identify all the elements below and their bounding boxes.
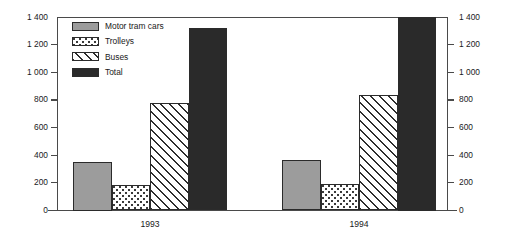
y-tick-label-right: 800 [459, 95, 473, 103]
y-tick-label-right: 0 [459, 206, 464, 214]
legend-item: Trolleys [72, 35, 164, 48]
y-tick-label-right: 600 [459, 123, 473, 131]
y-tick-label-left: 1 000 [27, 68, 48, 76]
legend-swatch-icon [72, 68, 99, 77]
y-tick-label-right: 1 000 [459, 68, 480, 76]
y-tick-label-left: 200 [34, 178, 48, 186]
legend-item: Total [72, 66, 164, 79]
y-tick-right [448, 99, 454, 100]
legend-item: Motor tram cars [72, 20, 164, 33]
legend-label: Trolleys [105, 37, 134, 45]
y-tick-left [51, 127, 57, 128]
legend-swatch-icon [72, 52, 99, 61]
y-tick-label-left: 1 200 [27, 40, 48, 48]
y-tick-left [51, 155, 57, 156]
legend-swatch-icon [72, 22, 99, 31]
legend-label: Motor tram cars [105, 22, 164, 30]
legend: Motor tram carsTrolleysBusesTotal [72, 20, 164, 81]
legend-item: Buses [72, 50, 164, 63]
y-tick-right [448, 155, 454, 156]
y-tick-left [51, 99, 57, 100]
y-tick-left [51, 72, 57, 73]
axis-baseline [48, 210, 457, 211]
y-tick-label-right: 400 [459, 151, 473, 159]
legend-label: Buses [105, 53, 128, 61]
legend-swatch-icon [72, 37, 99, 46]
y-tick-right [448, 127, 454, 128]
y-tick-label-left: 800 [34, 95, 48, 103]
y-tick-right [448, 44, 454, 45]
y-tick-label-right: 1 400 [459, 13, 480, 21]
bar-chart: 02004006008001 0001 2001 400 02004006008… [0, 0, 506, 241]
y-tick-label-left: 600 [34, 123, 48, 131]
y-tick-label-left: 1 400 [27, 13, 48, 21]
y-tick-label-left: 400 [34, 151, 48, 159]
y-tick-left [51, 44, 57, 45]
y-tick-left [51, 182, 57, 183]
y-tick-label-right: 200 [459, 178, 473, 186]
x-axis-label-1994: 1994 [329, 219, 389, 229]
y-tick-right [448, 72, 454, 73]
y-tick-label-right: 1 200 [459, 40, 480, 48]
y-tick-right [448, 182, 454, 183]
y-tick-label-left: 0 [43, 206, 48, 214]
legend-label: Total [105, 68, 123, 76]
x-axis-label-1993: 1993 [120, 219, 180, 229]
